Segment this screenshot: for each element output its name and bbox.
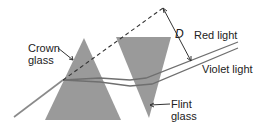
deviation-D-label: D [175, 28, 184, 40]
crown-glass-pointer [58, 48, 73, 60]
crown-glass-label-line2: glass [28, 54, 54, 66]
crown-glass-label-line1: Crown [28, 42, 60, 54]
flint-glass-label-line2: glass [171, 110, 197, 122]
flint-glass-prism [116, 37, 171, 118]
prism-diagram: Crown glass Flint glass Red light Violet… [0, 0, 268, 129]
violet-light-label: Violet light [202, 63, 253, 75]
flint-glass-pointer [150, 104, 170, 105]
flint-glass-label-line1: Flint [171, 98, 192, 110]
red-light-label: Red light [194, 29, 237, 41]
